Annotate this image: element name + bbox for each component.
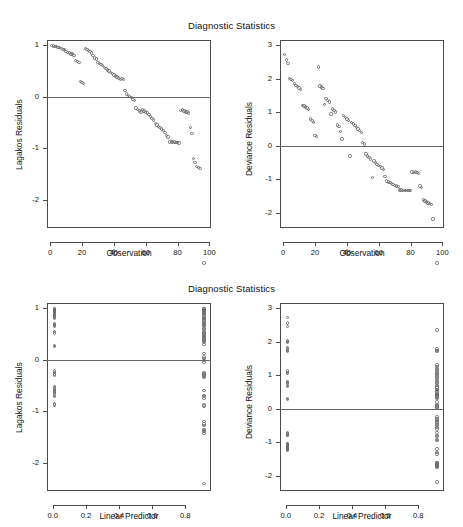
x-axis-tick-mark	[411, 242, 412, 246]
y-axis-tick-mark	[276, 45, 280, 46]
x-axis-tick-label: 60	[132, 248, 160, 257]
x-axis-tick-mark	[418, 505, 419, 509]
x-axis-tick-mark	[315, 242, 316, 246]
zero-reference-line	[47, 360, 211, 361]
x-axis-line	[50, 242, 209, 243]
scatter-point	[202, 343, 205, 346]
scatter-point	[435, 466, 438, 469]
y-axis-tick-mark	[276, 308, 280, 309]
scatter-point	[435, 328, 438, 331]
y-axis-tick-label: 2	[250, 74, 272, 83]
scatter-point	[177, 141, 180, 144]
x-axis-tick-mark	[286, 505, 287, 509]
scatter-point	[435, 480, 438, 483]
y-axis-tick-label: -1	[250, 174, 272, 183]
y-axis-tick-mark	[276, 375, 280, 376]
y-axis-tick-label: 0	[250, 404, 272, 413]
y-axis-tick-label: -1	[17, 143, 39, 152]
x-axis-tick-mark	[352, 505, 353, 509]
y-axis-tick-label: 1	[250, 370, 272, 379]
diagnostic-statistics-figure: Diagnostic Statistics Lagakos Residuals …	[0, 0, 463, 527]
x-axis-tick-label: 0.0	[39, 511, 67, 520]
scatter-point	[202, 361, 205, 364]
y-axis-tick-mark	[276, 213, 280, 214]
y-axis-tick-mark	[276, 476, 280, 477]
plot-area-top-right[interactable]	[280, 40, 444, 228]
y-axis-tick-label: -2	[250, 471, 272, 480]
x-axis-tick-label: 0.0	[272, 511, 300, 520]
x-axis-tick-label: 20	[301, 248, 329, 257]
y-axis-tick-label: -1	[250, 437, 272, 446]
x-axis-tick-label: 80	[164, 248, 192, 257]
y-axis-tick-mark	[276, 342, 280, 343]
panel-top-right: Deviance Residuals Observation -2-101230…	[231, 0, 463, 263]
scatter-point	[435, 452, 438, 455]
scatter-point	[202, 404, 205, 407]
y-axis-label-top-left: Lagakos Residuals	[14, 99, 24, 170]
x-axis-tick-mark	[50, 242, 51, 246]
y-axis-tick-label: 1	[17, 40, 39, 49]
x-axis-tick-label: 0.6	[371, 511, 399, 520]
x-axis-tick-label: 0.4	[338, 511, 366, 520]
y-axis-tick-mark	[276, 79, 280, 80]
x-axis-tick-label: 80	[397, 248, 425, 257]
y-axis-tick-label: 2	[250, 337, 272, 346]
y-axis-tick-mark	[43, 308, 47, 309]
scatter-point	[435, 350, 438, 353]
x-axis-tick-mark	[379, 242, 380, 246]
x-axis-tick-label: 100	[428, 248, 456, 257]
y-axis-tick-mark	[43, 45, 47, 46]
y-axis-tick-mark	[276, 409, 280, 410]
x-axis-tick-label: 0.2	[72, 511, 100, 520]
y-axis-tick-mark	[276, 146, 280, 147]
scatter-point	[286, 62, 289, 65]
x-axis-tick-mark	[152, 505, 153, 509]
scatter-point	[312, 121, 315, 124]
scatter-point	[329, 112, 332, 115]
y-axis-tick-label: 0	[17, 92, 39, 101]
scatter-point	[193, 161, 196, 164]
x-axis-tick-label: 0	[269, 248, 297, 257]
y-axis-tick-label: -2	[17, 195, 39, 204]
x-axis-tick-mark	[53, 505, 54, 509]
scatter-point	[202, 432, 205, 435]
scatter-point	[435, 435, 438, 438]
x-axis-tick-label: 0.2	[305, 511, 333, 520]
x-axis-tick-label: 0.6	[138, 511, 166, 520]
x-axis-tick-mark	[283, 242, 284, 246]
y-axis-tick-label: 3	[250, 40, 272, 49]
scatter-point	[337, 125, 340, 128]
plot-area-top-left[interactable]	[47, 40, 211, 228]
y-axis-tick-label: 3	[250, 303, 272, 312]
scatter-point	[202, 424, 205, 427]
y-axis-tick-label: 0	[250, 141, 272, 150]
y-axis-tick-mark	[276, 112, 280, 113]
y-axis-tick-mark	[43, 148, 47, 149]
zero-reference-line	[280, 146, 444, 147]
panel-row-top: Diagnostic Statistics Lagakos Residuals …	[0, 0, 463, 263]
plot-area-bottom-left[interactable]	[47, 303, 211, 491]
scatter-point	[202, 389, 205, 392]
y-axis-tick-mark	[43, 360, 47, 361]
x-axis-line	[283, 242, 442, 243]
y-axis-tick-label: -2	[250, 208, 272, 217]
scatter-point	[363, 142, 366, 145]
scatter-point	[202, 482, 205, 485]
x-axis-tick-label: 0.4	[105, 511, 133, 520]
y-axis-tick-label: 0	[17, 355, 39, 364]
x-axis-tick-mark	[146, 242, 147, 246]
scatter-point	[202, 376, 205, 379]
y-axis-tick-label: 1	[17, 303, 39, 312]
y-axis-tick-mark	[43, 411, 47, 412]
y-axis-tick-mark	[276, 442, 280, 443]
y-axis-tick-mark	[43, 463, 47, 464]
panel-bottom-left: Lagakos Residuals Linear Predictor -2-10…	[0, 263, 232, 526]
x-axis-tick-mark	[209, 242, 210, 246]
scatter-point	[202, 397, 205, 400]
y-axis-tick-label: -2	[17, 458, 39, 467]
scatter-point	[166, 135, 169, 138]
scatter-point	[317, 65, 320, 68]
panel-top-left: Lagakos Residuals Observation -2-1010204…	[0, 0, 232, 263]
x-axis-tick-label: 40	[333, 248, 361, 257]
plot-area-bottom-right[interactable]	[280, 303, 444, 491]
